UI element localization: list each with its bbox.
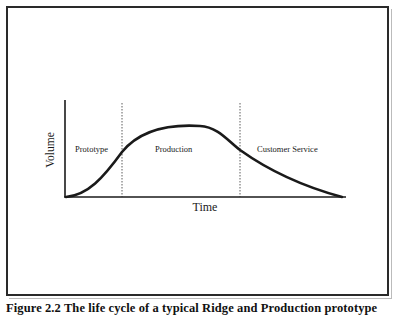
figure-caption: Figure 2.2 The life cycle of a typical R… bbox=[6, 301, 398, 319]
x-axis-label: Time bbox=[193, 200, 218, 214]
phase-label-production: Production bbox=[155, 144, 193, 154]
phase-label-customer-service: Customer Service bbox=[257, 144, 318, 154]
phase-label-prototype: Prototype bbox=[75, 144, 108, 154]
volume-curve bbox=[66, 126, 342, 197]
y-axis-label: Volume bbox=[44, 132, 56, 168]
